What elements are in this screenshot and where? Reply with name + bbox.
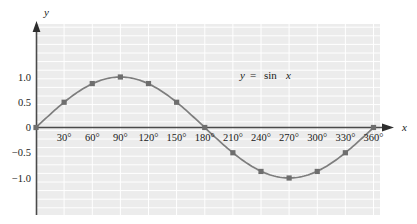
equation-argument: x	[285, 69, 291, 81]
x-tick-label: 240°	[251, 132, 271, 143]
data-point-marker	[315, 169, 320, 174]
y-tick-label: −0.5	[12, 147, 31, 158]
data-point-marker	[287, 175, 292, 180]
x-tick-label: 150°	[167, 132, 187, 143]
sine-graph-figure: 1.00.50−0.5−1.0 30°60°90°120°150°180°210…	[0, 0, 417, 224]
data-point-marker	[146, 81, 151, 86]
equation-function: sin	[264, 69, 277, 81]
x-tick-label: 180°	[195, 132, 215, 143]
y-tick-label: 0.5	[18, 97, 31, 108]
x-tick-label: 30°	[57, 132, 72, 143]
data-point-marker	[174, 100, 179, 105]
y-tick-label: 0	[26, 122, 31, 133]
x-tick-label: 330°	[335, 132, 355, 143]
y-tick-label: −1.0	[12, 173, 31, 184]
sine-plot-svg: 1.00.50−0.5−1.0 30°60°90°120°150°180°210…	[0, 0, 417, 224]
x-tick-label: 120°	[139, 132, 159, 143]
y-axis-label: y	[43, 6, 49, 18]
data-point-marker	[258, 169, 263, 174]
data-point-marker	[90, 81, 95, 86]
y-axis-tick-labels: 1.00.50−0.5−1.0	[12, 72, 31, 184]
data-point-marker	[62, 100, 67, 105]
data-point-marker	[33, 125, 38, 130]
x-tick-label: 300°	[307, 132, 327, 143]
x-tick-label: 90°	[113, 132, 128, 143]
equation-lhs: y	[239, 69, 245, 81]
equation-equals: =	[250, 69, 256, 81]
data-point-marker	[202, 125, 207, 130]
data-point-marker	[371, 125, 376, 130]
y-tick-label: 1.0	[18, 72, 31, 83]
x-tick-label: 270°	[279, 132, 299, 143]
x-axis-arrowhead	[382, 123, 394, 131]
data-point-marker	[118, 74, 123, 79]
x-tick-label: 60°	[85, 132, 100, 143]
x-tick-label: 210°	[223, 132, 243, 143]
data-point-marker	[230, 150, 235, 155]
x-tick-label: 360°	[364, 132, 384, 143]
data-point-marker	[343, 150, 348, 155]
x-axis-label: x	[401, 121, 407, 133]
